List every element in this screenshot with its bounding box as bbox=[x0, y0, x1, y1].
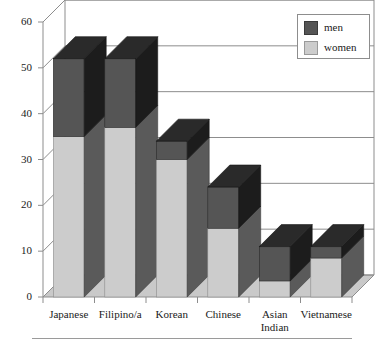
stacked-bar-chart: 0102030405060 JapaneseFilipino/aKoreanCh… bbox=[0, 0, 384, 343]
y-tick-label: 50 bbox=[6, 62, 32, 73]
legend-item-women[interactable]: women bbox=[304, 40, 356, 55]
bottom-rule bbox=[32, 338, 352, 339]
legend-swatch-men bbox=[304, 21, 318, 35]
legend-label-men: men bbox=[324, 22, 343, 33]
legend-label-women: women bbox=[324, 42, 356, 53]
legend-swatch-women bbox=[304, 41, 318, 55]
y-tick-label: 0 bbox=[6, 291, 32, 302]
y-tick-label: 30 bbox=[6, 154, 32, 165]
x-category-label-line: Indian bbox=[238, 321, 312, 334]
y-tick-label: 20 bbox=[6, 199, 32, 210]
y-tick-label: 10 bbox=[6, 245, 32, 256]
x-category-label-line: Vietnamese bbox=[289, 308, 363, 321]
legend: men women bbox=[297, 14, 370, 59]
legend-item-men[interactable]: men bbox=[304, 20, 343, 35]
x-category-label: Vietnamese bbox=[289, 308, 363, 321]
y-tick-label: 60 bbox=[6, 16, 32, 27]
y-tick-label: 40 bbox=[6, 108, 32, 119]
